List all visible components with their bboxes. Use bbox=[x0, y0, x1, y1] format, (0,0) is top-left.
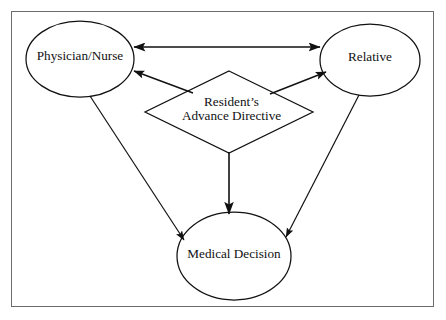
node-relative[interactable] bbox=[320, 24, 420, 96]
edge-directive-relative bbox=[270, 72, 326, 94]
diagram-vector-layer bbox=[0, 0, 446, 320]
node-physician-nurse[interactable] bbox=[26, 21, 134, 97]
diagram-canvas: Physician/Nurse Relative Resident’s Adva… bbox=[0, 0, 446, 320]
node-medical-decision[interactable] bbox=[177, 212, 291, 300]
node-advance-directive[interactable] bbox=[145, 71, 313, 153]
edge-directive-physician bbox=[134, 71, 193, 93]
